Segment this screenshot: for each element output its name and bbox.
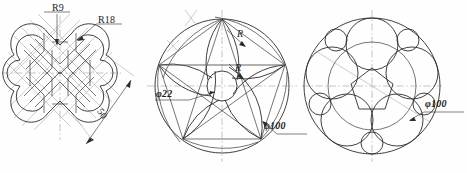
knot-centerlines <box>2 16 122 140</box>
label-phi100-rosette: φ100 <box>264 120 286 131</box>
figure-endless-knot: R9 R18 50 <box>0 0 155 173</box>
drawing-sheet: R9 R18 50 <box>0 0 467 173</box>
label-phi22: φ22 <box>156 88 172 99</box>
figure-circle-packing: φ100 <box>300 0 467 173</box>
endless-knot-drawing <box>0 0 155 173</box>
phi100-leader-packing <box>409 112 464 121</box>
label-r-upper: R <box>237 28 243 39</box>
spiral-rosette-drawing <box>145 0 310 173</box>
circle-packing-drawing <box>300 0 467 173</box>
label-r-lower: R <box>235 62 241 73</box>
label-r18: R18 <box>98 14 115 25</box>
label-r9: R9 <box>52 2 64 13</box>
dim-50 <box>76 60 134 144</box>
r9-leader <box>44 12 70 46</box>
label-phi100-packing: φ100 <box>425 98 447 109</box>
figure-spiral-rosette: R R φ22 φ100 <box>145 0 310 173</box>
